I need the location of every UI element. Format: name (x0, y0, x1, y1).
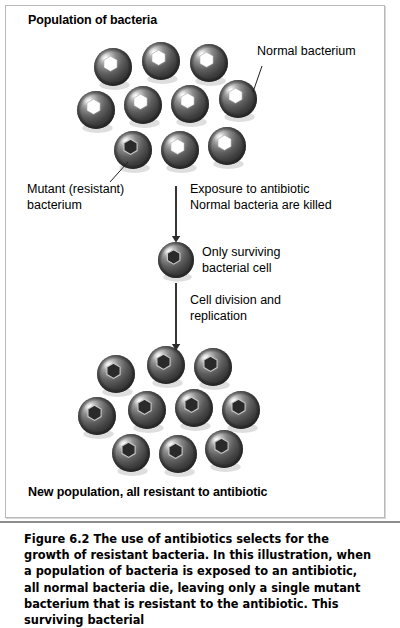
bacterium-mutant (175, 389, 213, 431)
new-population-label: New population, all resistant to antibio… (28, 485, 267, 500)
bacterium-mutant (194, 348, 232, 390)
mutant-nucleus-icon (185, 397, 198, 412)
mutant-nucleus-icon (169, 443, 182, 458)
bacterium-normal (171, 85, 209, 127)
bacterium-mutant (97, 355, 135, 397)
population-title: Population of bacteria (28, 13, 157, 28)
callout-mutant-bacterium-line2: bacterium (27, 198, 82, 213)
mutant-nucleus-icon (124, 139, 137, 154)
bacteria-group-stage-1 (158, 242, 194, 282)
bacteria-group-stage-2 (78, 346, 260, 477)
mutant-nucleus-icon (157, 354, 170, 369)
bacterium-mutant (222, 391, 260, 433)
bacteria-diagram-svg (0, 0, 400, 520)
figure-caption: Figure 6.2 The use of antibiotics select… (24, 531, 376, 628)
callout-normal-bacterium: Normal bacterium (257, 44, 356, 59)
bacterium-normal (124, 86, 162, 128)
bacterium-mutant (78, 397, 116, 439)
bacterium-normal (190, 44, 228, 86)
mutant-nucleus-icon (122, 442, 135, 457)
mutant-nucleus-icon (107, 363, 120, 378)
callout-surviving-cell-line2: bacterial cell (202, 261, 271, 276)
mutant-nucleus-icon (204, 356, 217, 371)
mutant-nucleus-icon (88, 405, 101, 420)
bacterium-mutant (158, 242, 194, 282)
bacterium-mutant (159, 435, 197, 477)
mutant-nucleus-icon (232, 399, 245, 414)
leader-line-2 (110, 162, 128, 182)
bacterium-mutant (205, 430, 243, 472)
step2-line2: replication (190, 309, 247, 324)
bacterium-normal (94, 48, 132, 90)
step1-line1: Exposure to antibiotic (190, 182, 310, 197)
bacterium-mutant (114, 131, 152, 173)
figure-caption-text: The use of antibiotics selects for the g… (24, 532, 371, 627)
bacterium-normal (142, 42, 180, 84)
figure-number: Figure 6.2 (24, 532, 89, 546)
caption-divider (0, 521, 400, 523)
mutant-nucleus-icon (167, 250, 179, 264)
bacteria-group-stage-0 (77, 42, 257, 173)
leader-line-1 (253, 66, 262, 92)
bacterium-normal (208, 127, 246, 169)
mutant-nucleus-icon (215, 438, 228, 453)
bacterium-mutant (128, 391, 166, 433)
mutant-nucleus-icon (138, 399, 151, 414)
bacterium-mutant (147, 346, 185, 388)
bacterium-normal (77, 91, 115, 133)
step2-line1: Cell division and (190, 293, 281, 308)
callout-mutant-bacterium-line1: Mutant (resistant) (27, 182, 124, 197)
step1-line2: Normal bacteria are killed (190, 198, 332, 213)
bacterium-normal (219, 80, 257, 122)
callout-surviving-cell-line1: Only surviving (202, 245, 281, 260)
bacterium-normal (161, 131, 199, 173)
bacterium-mutant (112, 434, 150, 476)
